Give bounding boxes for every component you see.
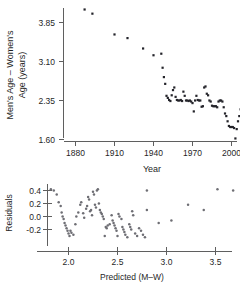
data-point: [60, 211, 63, 214]
y-tick-label: 3.10: [38, 57, 55, 67]
data-point: [142, 233, 145, 236]
data-point: [187, 204, 190, 207]
data-point: [93, 193, 96, 196]
data-point: [232, 189, 235, 192]
y-tick-label: 0.4: [29, 186, 41, 196]
data-point: [126, 236, 129, 239]
data-point: [173, 86, 175, 88]
data-point: [90, 209, 93, 212]
x-tick-label: 1970: [183, 148, 202, 158]
data-point: [87, 196, 90, 199]
data-point: [115, 230, 118, 233]
data-point: [123, 231, 126, 234]
residual-chart-x-axis-title: Predicted (M–W): [100, 272, 164, 282]
data-point: [146, 189, 149, 192]
y-tick-label: 0.0: [29, 212, 41, 222]
data-point: [105, 227, 108, 230]
data-point: [57, 201, 60, 204]
data-point: [238, 115, 240, 117]
data-point: [103, 218, 106, 221]
data-point: [171, 94, 173, 96]
data-point: [65, 227, 68, 230]
data-point: [95, 206, 98, 209]
top-chart-x-ticks: [76, 142, 232, 147]
data-point: [210, 100, 212, 102]
top-chart-x-tick-labels: 1880 1910 1940 1970 2000: [66, 148, 240, 158]
data-point: [152, 54, 154, 56]
data-point: [67, 232, 70, 235]
data-point: [204, 85, 206, 87]
data-point: [194, 99, 196, 101]
data-point: [216, 188, 219, 191]
data-point: [104, 235, 107, 238]
data-point: [193, 110, 195, 112]
data-point: [102, 215, 105, 218]
data-point: [113, 33, 115, 35]
data-point: [112, 222, 115, 225]
data-point: [129, 226, 132, 229]
data-point: [85, 207, 88, 210]
x-tick-label: 1940: [144, 148, 163, 158]
data-point: [136, 235, 139, 238]
data-point: [117, 213, 120, 216]
data-point: [94, 204, 97, 207]
x-tick-label: 1910: [105, 148, 124, 158]
data-point: [122, 228, 125, 231]
data-point: [236, 128, 238, 130]
x-tick-label: 3.0: [161, 257, 173, 267]
top-chart-y-axis-title-line2: Age (years): [17, 52, 27, 99]
residual-plot-svg: 0.4 0.2 0.0 -0.2 2.0 2.5 3.0 3.5 Predict…: [0, 180, 240, 290]
data-point: [110, 214, 113, 217]
data-point: [83, 217, 86, 220]
data-point: [108, 223, 111, 226]
data-point: [195, 95, 197, 97]
data-point: [70, 232, 73, 235]
data-point: [237, 120, 239, 122]
data-point: [130, 228, 133, 231]
data-point: [113, 224, 116, 227]
data-point: [101, 213, 104, 216]
data-point: [216, 106, 218, 108]
data-point: [240, 108, 241, 110]
data-point: [68, 235, 71, 238]
data-point: [59, 205, 62, 208]
data-point: [80, 201, 83, 204]
figure-container: 3.85 3.10 2.35 1.60 1880 1910 1940 1970 …: [0, 0, 240, 290]
y-tick-label: -0.2: [26, 225, 41, 235]
data-point: [88, 198, 91, 201]
top-chart-y-axis-title-line1: Men's Age – Women's: [5, 30, 15, 119]
data-point: [167, 97, 169, 99]
y-tick-label: 3.85: [38, 18, 55, 28]
top-chart-y-ticks: [59, 23, 64, 140]
data-point: [224, 112, 226, 114]
y-tick-label: 0.2: [29, 199, 41, 209]
data-point: [134, 232, 137, 235]
data-point: [63, 222, 66, 225]
data-point: [172, 89, 174, 91]
data-point: [72, 233, 75, 236]
data-point: [50, 188, 53, 191]
data-point: [131, 210, 134, 213]
data-point: [77, 211, 80, 214]
data-point: [221, 100, 223, 102]
y-tick-label: 2.35: [38, 96, 55, 106]
data-point: [92, 191, 95, 194]
data-point: [182, 91, 184, 93]
data-point: [142, 47, 144, 49]
data-point: [191, 102, 193, 104]
data-point: [64, 224, 67, 227]
data-point: [170, 219, 173, 222]
data-point: [55, 193, 58, 196]
data-point: [91, 13, 93, 15]
data-point: [84, 8, 86, 10]
x-tick-label: 3.5: [210, 257, 222, 267]
data-point: [75, 215, 78, 218]
data-point: [111, 219, 114, 222]
residual-chart-data-points: [50, 188, 235, 239]
data-point: [53, 189, 56, 192]
y-tick-label: 1.60: [38, 135, 55, 145]
data-point: [234, 137, 236, 139]
data-point: [138, 227, 141, 230]
residual-chart-y-tick-labels: 0.4 0.2 0.0 -0.2: [26, 186, 41, 235]
x-tick-label: 2.5: [112, 257, 124, 267]
